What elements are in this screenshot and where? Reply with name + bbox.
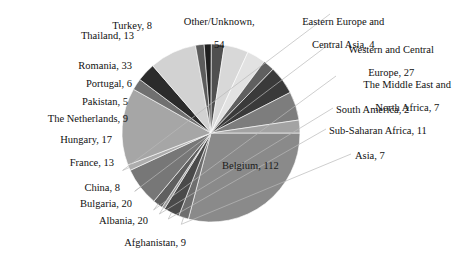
label-line-2: 54: [214, 39, 225, 50]
slice-label-thailand: Thailand, 13: [50, 30, 134, 42]
slice-label-belgium: Belgium, 112: [222, 160, 302, 172]
label-line-1: The Middle East and: [363, 79, 451, 90]
pie-slices-group: [122, 44, 300, 222]
slice-label-romania: Romania, 33: [36, 60, 132, 72]
slice-label-china: China, 8: [42, 182, 120, 194]
label-line-1: Other/Unknown,: [184, 16, 255, 27]
slice-label-sub-saharan-africa: Sub-Saharan Africa, 11: [329, 125, 471, 137]
slice-label-middle-east-north-africa: The Middle East and North Africa, 7: [340, 67, 464, 125]
label-line-1: Western and Central: [348, 44, 433, 55]
slice-label-pakistan: Pakistan, 5: [28, 96, 128, 108]
slice-label-france: France, 13: [22, 157, 114, 169]
slice-label-portugal: Portugal, 6: [38, 78, 132, 90]
pie-chart-figure: Other/Unknown, 54 Eastern Europe and Cen…: [0, 0, 471, 258]
slice-label-netherlands: The Netherlands, 9: [2, 113, 128, 125]
label-line-1: Eastern Europe and: [302, 16, 384, 27]
slice-label-asia: Asia, 7: [355, 150, 415, 162]
slice-label-albania: Albania, 20: [58, 215, 148, 227]
slice-label-bulgaria: Bulgaria, 20: [40, 198, 132, 210]
slice-label-hungary: Hungary, 17: [18, 134, 112, 146]
slice-label-south-america: South America, 2: [336, 104, 466, 116]
slice-label-afghanistan: Afghanistan, 9: [78, 237, 186, 249]
slice-label-other-unknown: Other/Unknown, 54: [169, 4, 259, 62]
